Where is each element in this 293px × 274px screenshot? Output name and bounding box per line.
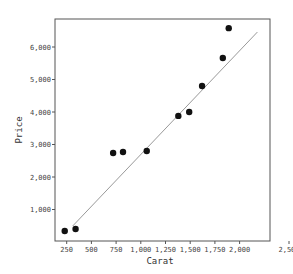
data-point	[72, 226, 78, 232]
x-tick-label: 1,750	[204, 246, 225, 254]
data-point	[220, 55, 226, 61]
x-tick-label: 1,500	[180, 246, 201, 254]
data-point	[186, 109, 192, 115]
x-tick-label: 750	[110, 246, 123, 254]
y-tick-label: 5,000	[30, 76, 51, 84]
data-point	[175, 113, 181, 119]
y-tick-label: 6,000	[30, 44, 51, 52]
y-tick-label: 1,000	[30, 206, 51, 214]
x-tick-label: 2,000	[229, 246, 250, 254]
x-tick-label: 1,000	[130, 246, 151, 254]
x-tick-label: 250	[60, 246, 73, 254]
data-point	[62, 228, 68, 234]
y-axis-label: Price	[14, 116, 24, 143]
x-axis-label: Carat	[146, 256, 173, 266]
scatter-chart: 2505007501,0001,2501,5001,7502,0002,500 …	[0, 0, 293, 274]
data-point	[120, 149, 126, 155]
data-point	[110, 150, 116, 156]
data-point	[144, 148, 150, 154]
x-tick-label: 500	[85, 246, 98, 254]
y-axis-ticks: 1,0002,0003,0004,0005,0006,000	[30, 44, 55, 215]
x-tick-label: 1,250	[155, 246, 176, 254]
y-tick-label: 3,000	[30, 141, 51, 149]
data-point	[199, 83, 205, 89]
x-tick-label: 2,500	[278, 246, 293, 254]
y-tick-label: 4,000	[30, 109, 51, 117]
data-point	[226, 25, 232, 31]
x-axis-ticks: 2505007501,0001,2501,5001,7502,0002,500	[60, 241, 293, 254]
y-tick-label: 2,000	[30, 174, 51, 182]
